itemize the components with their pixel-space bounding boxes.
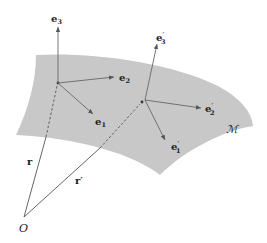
vector-r-prime-solid [24, 148, 100, 217]
label-e3: e3 [51, 13, 62, 26]
label-r-prime: r′ [75, 175, 83, 186]
vector-r-solid [24, 137, 46, 217]
label-origin: O [19, 222, 28, 235]
manifold-diagram: e3 e2 e1 e′3 e′2 e′1 r r′ ℳ O [0, 0, 267, 243]
label-r: r [27, 156, 33, 167]
label-manifold: ℳ [226, 123, 240, 136]
label-e3-prime: e′3 [156, 31, 166, 46]
point-p-prime [141, 101, 144, 104]
manifold-surface [16, 54, 253, 175]
